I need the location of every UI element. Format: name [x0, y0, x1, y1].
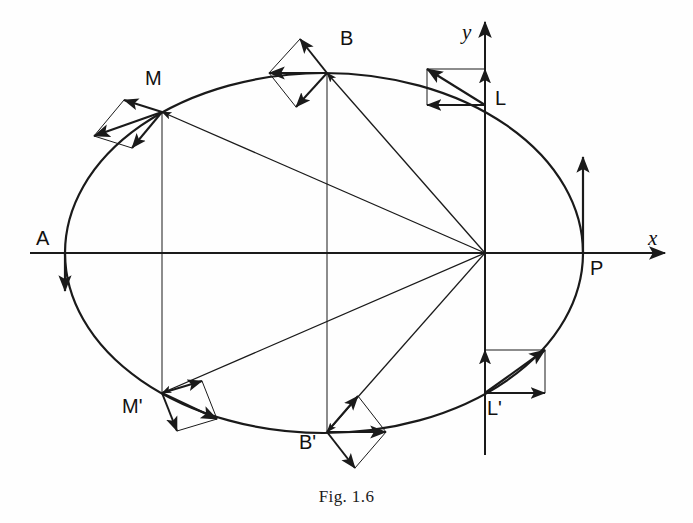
velocity-component-1-B — [300, 39, 327, 73]
figure-container: APBB'MM'LL' x y Fig. 1.6 — [0, 0, 693, 523]
velocity-resultant-L — [427, 69, 485, 105]
point-label-M: M — [145, 68, 162, 88]
point-label-Bp: B' — [299, 432, 316, 452]
point-label-P: P — [590, 258, 603, 278]
radius-vector-Mp — [162, 253, 485, 393]
velocity-component-2-Bp — [327, 432, 355, 468]
figure-caption: Fig. 1.6 — [0, 487, 693, 507]
radius-vector-M — [162, 112, 485, 253]
point-label-Mp: M' — [122, 396, 142, 416]
point-label-A: A — [36, 228, 49, 248]
point-label-B: B — [340, 28, 353, 48]
velocity-component-1-M — [124, 100, 162, 112]
y-axis-label: y — [462, 22, 471, 43]
velocity-component-1-Mp — [162, 381, 202, 393]
x-axis-label: x — [648, 228, 657, 249]
axes-group — [30, 22, 665, 455]
velocity-component-1-Bp — [327, 396, 358, 432]
point-label-L: L — [495, 88, 506, 108]
standalone-arrows-group — [65, 157, 583, 291]
velocity-resultant-Lp — [485, 350, 545, 393]
point-label-Lp: L' — [487, 398, 502, 418]
parallelogram-construction-Mp — [177, 381, 217, 431]
velocity-component-2-B — [296, 73, 327, 107]
